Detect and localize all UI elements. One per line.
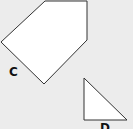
- label-d: D: [100, 122, 110, 129]
- diagram-canvas: [0, 0, 133, 129]
- label-c: C: [9, 66, 18, 78]
- triangle-d: [84, 78, 127, 120]
